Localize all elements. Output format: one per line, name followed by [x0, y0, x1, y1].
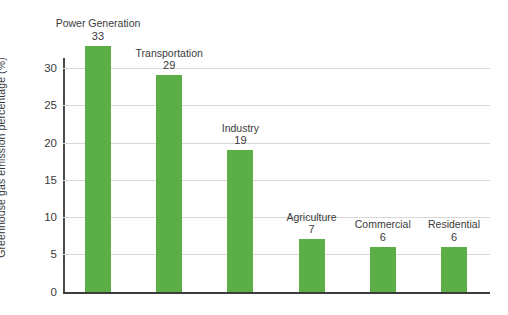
bar[interactable]	[156, 75, 182, 291]
y-tick-label: 10	[44, 211, 57, 223]
bar-category-name: Agriculture	[286, 211, 336, 223]
y-tick-label: 0	[51, 286, 57, 298]
y-tick-label: 25	[44, 99, 57, 111]
bar-category-name: Commercial	[355, 218, 411, 230]
bars-layer: Power Generation33Transportation29Indust…	[63, 10, 490, 293]
y-tick-label: 5	[51, 248, 57, 260]
y-tick-label: 30	[44, 62, 57, 74]
bar-group[interactable]: Transportation29	[156, 75, 182, 291]
bar-chart: Greenhouse gas emission percentage (%) 0…	[0, 0, 508, 315]
bar-group[interactable]: Residential6	[441, 247, 467, 292]
bar-group[interactable]: Agriculture7	[299, 239, 325, 291]
bar-group[interactable]: Power Generation33	[85, 46, 111, 292]
bar-label: Agriculture7	[286, 211, 336, 236]
bar-category-name: Residential	[428, 218, 480, 230]
bar-label: Transportation29	[136, 47, 203, 72]
bar-value-label: 33	[56, 30, 141, 43]
bar-value-label: 19	[222, 134, 259, 147]
bar-value-label: 6	[355, 231, 411, 244]
bar-label: Power Generation33	[56, 17, 141, 42]
bar-label: Industry19	[222, 122, 259, 147]
bar-value-label: 7	[286, 223, 336, 236]
bar-category-name: Industry	[222, 122, 259, 134]
bar[interactable]	[299, 239, 325, 291]
bar[interactable]	[227, 150, 253, 292]
x-axis-line	[63, 292, 490, 294]
bar-category-name: Transportation	[136, 47, 203, 59]
y-tick-label: 15	[44, 174, 57, 186]
plot-area: 051015202530 Power Generation33Transport…	[63, 10, 490, 293]
bar[interactable]	[441, 247, 467, 292]
bar-label: Commercial6	[355, 218, 411, 243]
bar-label: Residential6	[428, 218, 480, 243]
bar[interactable]	[85, 46, 111, 292]
y-axis-title: Greenhouse gas emission percentage (%)	[0, 0, 20, 315]
bar-group[interactable]: Commercial6	[370, 247, 396, 292]
bar-value-label: 29	[136, 59, 203, 72]
bar[interactable]	[370, 247, 396, 292]
bar-category-name: Power Generation	[56, 17, 141, 29]
bar-value-label: 6	[428, 231, 480, 244]
y-tick-label: 20	[44, 137, 57, 149]
bar-group[interactable]: Industry19	[227, 150, 253, 292]
